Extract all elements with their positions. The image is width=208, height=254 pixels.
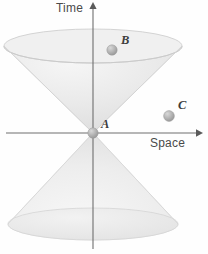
time-axis-label: Time [56,1,83,15]
event-sphere-c [164,111,175,122]
event-label-b: B [121,33,129,48]
event-label-a: A [101,117,109,132]
time-axis-arrow-icon [89,2,96,9]
space-axis-label: Space [150,136,185,150]
light-cone-figure: Time Space A B C [0,0,208,254]
event-label-c: C [178,98,186,113]
event-sphere-b [107,45,117,55]
space-axis-arrow-icon [196,129,203,137]
event-sphere-a [88,128,98,138]
